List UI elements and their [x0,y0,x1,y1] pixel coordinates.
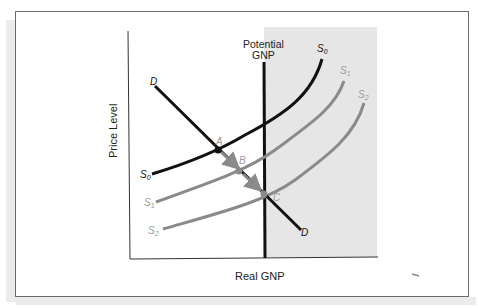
s1-label-left: S1 [144,197,155,209]
s2-label-left: S2 [148,225,159,237]
potential-gnp-label-line2: GNP [252,49,275,61]
potential-gnp-line [264,62,265,258]
point-b-label: B [239,155,246,166]
s0-label-left: S0 [140,169,151,181]
x-axis [130,257,378,259]
point-c [261,191,268,198]
stray-mark [412,274,419,276]
demand-label-top: D [150,76,157,87]
arrow-a-to-b [221,152,236,166]
point-b [236,168,243,175]
y-axis-label: Price Level [107,104,119,158]
x-axis-label: Real GNP [235,270,285,282]
arrow-b-to-c [243,174,258,188]
y-axis [128,31,130,259]
point-a [215,147,222,154]
point-c-label: C [273,192,281,203]
point-a-label: A [215,136,223,147]
aggregate-supply-demand-diagram: Price Level Real GNP Potential GNP D D S… [0,0,478,308]
demand-label-bottom: D [301,227,308,238]
